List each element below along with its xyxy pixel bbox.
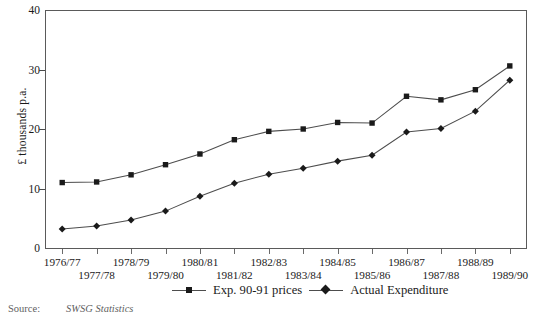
data-point-marker <box>473 87 478 92</box>
diamond-marker-icon <box>309 286 343 295</box>
data-point-marker <box>231 180 238 187</box>
source-value: SWSG Statistics <box>40 303 133 313</box>
data-point-marker <box>196 193 203 200</box>
data-point-marker <box>197 151 202 156</box>
series-line <box>62 66 510 183</box>
legend-item-exp-90-91-prices: Exp. 90-91 prices <box>172 283 302 298</box>
data-point-marker <box>94 179 99 184</box>
chart-legend: Exp. 90-91 prices Actual Expenditure <box>172 283 448 298</box>
data-point-marker <box>162 208 169 215</box>
source-label: Source: <box>8 303 40 313</box>
data-point-marker <box>266 129 271 134</box>
data-point-marker <box>369 120 374 125</box>
data-point-marker <box>93 222 100 229</box>
data-point-marker <box>300 165 307 172</box>
data-point-marker <box>438 97 443 102</box>
data-point-marker <box>334 158 341 165</box>
data-point-marker <box>60 180 65 185</box>
data-point-marker <box>403 128 410 135</box>
data-point-marker <box>232 137 237 142</box>
data-point-marker <box>437 125 444 132</box>
data-point-marker <box>369 152 376 159</box>
data-point-marker <box>335 120 340 125</box>
data-point-marker <box>128 172 133 177</box>
data-point-marker <box>59 225 66 232</box>
data-point-marker <box>265 171 272 178</box>
source-note: Source:SWSG Statistics <box>8 303 133 313</box>
legend-item-actual-expenditure: Actual Expenditure <box>309 283 448 298</box>
data-point-marker <box>163 162 168 167</box>
data-point-marker <box>507 63 512 68</box>
data-point-marker <box>301 126 306 131</box>
legend-label: Exp. 90-91 prices <box>211 283 302 298</box>
chart-figure: £ thousands p.a. 010203040 1976/771977/7… <box>0 0 560 313</box>
legend-label: Actual Expenditure <box>348 283 448 298</box>
series-exp-90-91-prices <box>60 63 513 185</box>
data-point-marker <box>128 217 135 224</box>
series-actual-expenditure <box>59 77 514 233</box>
square-marker-icon <box>172 286 206 295</box>
series-layer <box>0 0 560 313</box>
data-point-marker <box>404 94 409 99</box>
